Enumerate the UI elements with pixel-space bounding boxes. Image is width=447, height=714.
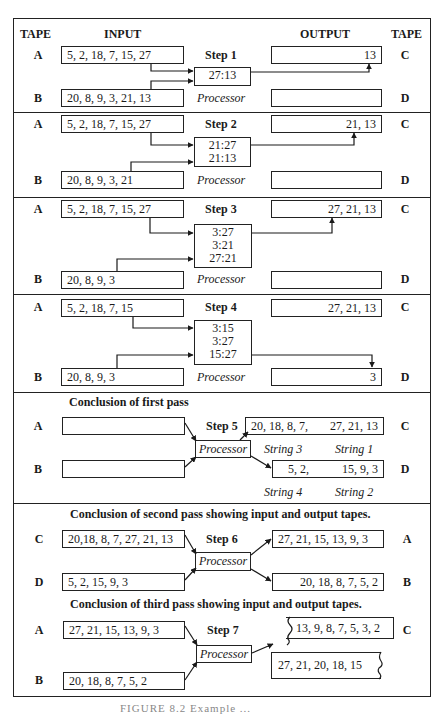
step-label: Step 6 xyxy=(206,532,238,547)
tape-label: D xyxy=(398,272,412,287)
tape-label: A xyxy=(31,48,45,63)
header-tape-left: TAPE xyxy=(20,27,51,42)
output-tape-continued: 27, 21, 20, 18, 15 xyxy=(271,652,381,679)
input-tape-top: 27, 21, 15, 13, 9, 3 xyxy=(63,621,185,639)
input-tape-top: 20,18, 8, 7, 27, 21, 13 xyxy=(62,530,185,548)
tape-label: B xyxy=(31,272,45,287)
section-caption: Conclusion of third pass showing input a… xyxy=(70,597,362,612)
string-label: String 3 xyxy=(264,442,302,457)
header-tape-right: TAPE xyxy=(391,27,422,42)
output-tape-bottom: 5, 2, 15, 9, 3 xyxy=(272,460,384,478)
tape-label: A xyxy=(31,300,45,315)
processor-box: Processor xyxy=(195,552,251,571)
tape-label: C xyxy=(398,202,412,217)
tape-label: B xyxy=(32,673,46,688)
input-tape-bottom: 20, 8, 9, 3, 21 xyxy=(61,171,184,189)
string-label: String 4 xyxy=(264,485,302,500)
section-caption: Conclusion of first pass xyxy=(69,395,189,410)
output-tape-bottom: 20, 18, 8, 7, 5, 2 xyxy=(272,573,384,591)
output-tape-top: 27, 21, 15, 13, 9, 3 xyxy=(272,530,384,548)
tape-label: D xyxy=(398,91,412,106)
output-tape-top: 13, 9, 8, 7, 5, 3, 2 xyxy=(286,617,394,639)
input-tape-top: 5, 2, 18, 7, 15, 27 xyxy=(61,46,184,64)
section-divider xyxy=(13,112,431,113)
string-4-values: 5, 2, xyxy=(288,461,309,477)
tape-label: A xyxy=(31,117,45,132)
section-caption: Conclusion of second pass showing input … xyxy=(70,507,370,522)
tape-label: B xyxy=(31,173,45,188)
tape-label: D xyxy=(398,173,412,188)
input-tape-bottom xyxy=(62,460,185,478)
output-tape-top: 20, 18, 8, 7, 27, 21, 13 xyxy=(245,417,384,435)
processor-label: Processor xyxy=(197,272,245,287)
step-label: Step 1 xyxy=(205,48,237,63)
section-divider xyxy=(13,294,431,295)
comparison: 21:13 xyxy=(195,152,250,165)
processor-label: Processor xyxy=(197,370,245,385)
output-tape-bottom xyxy=(271,89,382,107)
tape-label: B xyxy=(400,575,414,590)
string-1-values: 27, 21, 13 xyxy=(330,418,378,434)
input-tape-bottom: 5, 2, 15, 9, 3 xyxy=(62,573,185,591)
comparison: 15:27 xyxy=(195,348,251,361)
header-input: INPUT xyxy=(104,27,141,42)
tape-label: B xyxy=(31,91,45,106)
string-label: String 2 xyxy=(335,485,373,500)
string-2-values: 15, 9, 3 xyxy=(342,461,378,477)
tape-label: D xyxy=(398,370,412,385)
output-tape-top: 27, 21, 13 xyxy=(271,200,382,218)
tape-label: C xyxy=(398,117,412,132)
input-tape-top: 5, 2, 18, 7, 15 xyxy=(61,299,184,317)
processor-box: Processor xyxy=(196,645,252,663)
step-label: Step 4 xyxy=(205,300,237,315)
tape-label: C xyxy=(32,532,46,547)
tape-label: A xyxy=(32,623,46,638)
step-label: Step 3 xyxy=(205,202,237,217)
section-divider xyxy=(13,197,431,198)
input-tape-top xyxy=(62,417,185,435)
tape-label: C xyxy=(398,300,412,315)
output-tape-bottom: 3 xyxy=(271,368,382,386)
step-label: Step 7 xyxy=(207,623,239,638)
string-label: String 1 xyxy=(335,442,373,457)
string-3-values: 20, 18, 8, 7, xyxy=(251,419,308,433)
processor-box: 3:15 3:27 15:27 xyxy=(194,320,252,365)
processor-box: 21:27 21:13 xyxy=(194,137,251,167)
output-tape-top: 13 xyxy=(271,46,382,64)
header-output: OUTPUT xyxy=(300,27,350,42)
processor-box: 3:27 3:21 27:21 xyxy=(194,224,252,268)
processor-box: 27:13 xyxy=(194,67,251,86)
section-divider xyxy=(13,503,431,504)
tape-label: C xyxy=(398,48,412,63)
tape-label: B xyxy=(31,462,45,477)
tape-label: B xyxy=(31,370,45,385)
input-tape-top: 5, 2, 18, 7, 15, 27 xyxy=(61,200,184,218)
tape-label: D xyxy=(398,462,412,477)
output-tape-bottom xyxy=(271,171,382,189)
input-tape-bottom: 20, 8, 9, 3, 21, 13 xyxy=(61,89,184,107)
input-tape-bottom: 20, 8, 9, 3 xyxy=(61,368,184,386)
output-tape-bottom xyxy=(271,271,382,289)
step-label: Step 5 xyxy=(206,419,238,434)
tape-label: C xyxy=(398,419,412,434)
input-tape-bottom: 20, 18, 8, 7, 5, 2 xyxy=(63,672,185,690)
section-divider xyxy=(13,392,431,393)
tape-label: C xyxy=(400,623,414,638)
processor-label: Processor xyxy=(197,91,245,106)
processor-label: Processor xyxy=(197,173,245,188)
output-tape-top: 27, 21, 13 xyxy=(271,299,382,317)
tape-label: A xyxy=(31,202,45,217)
output-tape-top: 21, 13 xyxy=(271,115,382,133)
comparison: 27:21 xyxy=(195,252,251,265)
processor-box: Processor xyxy=(195,440,251,458)
input-tape-bottom: 20, 8, 9, 3 xyxy=(61,271,184,289)
figure-caption: FIGURE 8.2 Example ... xyxy=(120,702,251,714)
tape-label: A xyxy=(400,532,414,547)
comparison: 27:13 xyxy=(195,69,250,82)
step-label: Step 2 xyxy=(205,117,237,132)
tape-label: D xyxy=(32,575,46,590)
input-tape-top: 5, 2, 18, 7, 15, 27 xyxy=(61,115,184,133)
tape-label: A xyxy=(31,419,45,434)
